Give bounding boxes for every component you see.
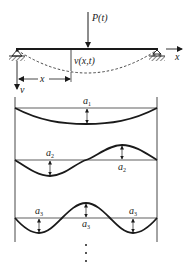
mode-2-amplitude-label-left: a2 (46, 147, 54, 159)
continuation-ellipsis (85, 244, 87, 262)
deflection-label: v(x,t) (74, 55, 95, 67)
pin-support-icon (9, 49, 25, 61)
mode-3-amplitude-label-center: a3 (82, 218, 90, 230)
mode-2-amplitude-label-right: a2 (118, 161, 126, 173)
beam-section: P(t) x v(x,t) x (9, 12, 182, 95)
x-dimension-label: x (39, 73, 45, 84)
mode-shapes: a1 a2 a2 a3 a3 (15, 95, 157, 262)
mode-1-amplitude-label: a1 (83, 95, 91, 107)
mode-3-amplitude-label-right: a3 (129, 205, 137, 217)
beam-vibration-diagram: P(t) x v(x,t) x (0, 0, 190, 274)
v-axis-label: v (20, 84, 25, 95)
mode-3: a3 a3 a3 (15, 203, 157, 233)
roller-support-icon (149, 50, 165, 61)
mode-2: a2 a2 (15, 145, 157, 176)
load-label: P(t) (91, 12, 108, 24)
mode-3-amplitude-label-left: a3 (35, 205, 43, 217)
mode-1: a1 (15, 95, 157, 124)
x-axis-label: x (174, 51, 180, 62)
